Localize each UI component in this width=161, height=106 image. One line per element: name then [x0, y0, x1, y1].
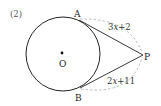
center-point [61, 52, 64, 55]
label-p: P [144, 52, 150, 62]
circle-o [26, 17, 100, 91]
label-b: B [75, 93, 82, 103]
problem-number: (2) [10, 9, 22, 19]
label-a: A [73, 9, 81, 19]
length-label-bp: 2x+11 [107, 76, 135, 86]
length-label-ap: 3x+2 [108, 22, 131, 32]
label-o: O [59, 59, 66, 69]
tangent-figure: (2) O A B P 3x+2 2x+11 [0, 0, 161, 106]
